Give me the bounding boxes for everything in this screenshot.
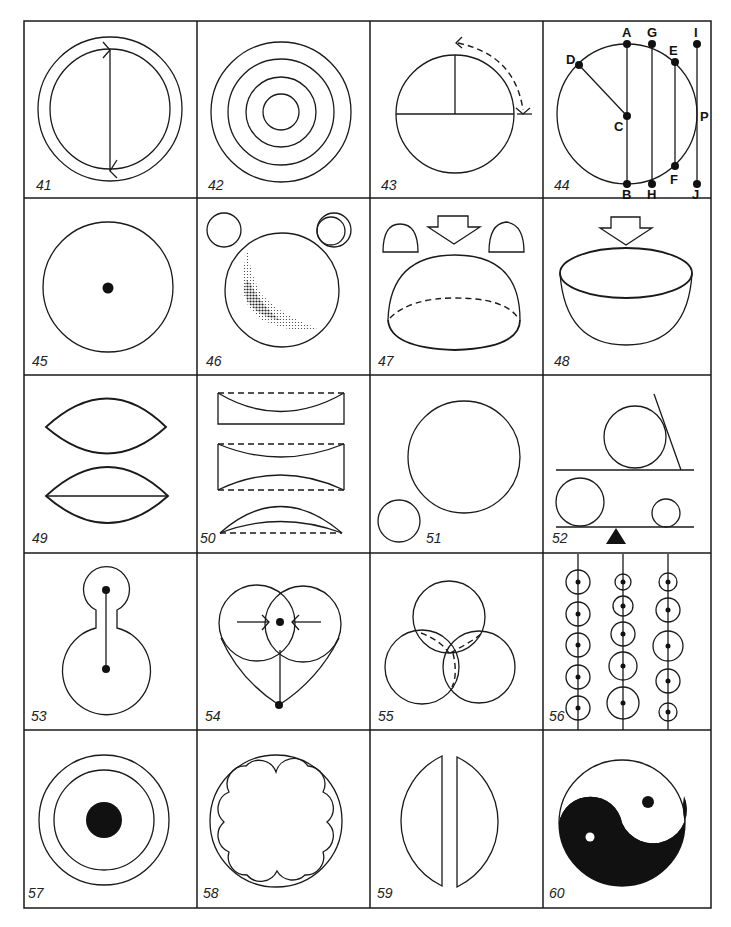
point-label-c: C bbox=[614, 119, 624, 134]
figure-46: 46 bbox=[206, 213, 351, 369]
figure-52: 52 bbox=[552, 394, 694, 546]
figure-sheet: 41 42 43 A G E bbox=[0, 0, 731, 927]
figure-47: 47 bbox=[378, 216, 524, 369]
figure-label: 53 bbox=[31, 708, 47, 724]
figure-41: 41 bbox=[36, 37, 182, 193]
figure-53: 53 bbox=[31, 567, 151, 724]
figure-56: 56 bbox=[549, 554, 683, 730]
figure-48: 48 bbox=[554, 217, 692, 369]
figure-label: 42 bbox=[208, 177, 224, 193]
point-label-e: E bbox=[669, 43, 678, 58]
figure-label: 44 bbox=[554, 177, 570, 193]
figure-51: 51 bbox=[378, 401, 520, 546]
figure-54: 54 bbox=[205, 585, 341, 724]
figure-label: 47 bbox=[378, 353, 395, 369]
figure-label: 46 bbox=[206, 353, 222, 369]
figure-label: 50 bbox=[200, 530, 216, 546]
figure-label: 55 bbox=[378, 708, 394, 724]
figure-57: 57 bbox=[28, 755, 169, 901]
figure-label: 54 bbox=[205, 708, 221, 724]
figure-label: 49 bbox=[32, 530, 48, 546]
figure-label: 41 bbox=[36, 177, 52, 193]
figure-label: 58 bbox=[203, 885, 219, 901]
figure-58: 58 bbox=[203, 755, 342, 901]
point-label-p: P bbox=[700, 109, 709, 124]
figure-label: 45 bbox=[32, 353, 48, 369]
figure-42: 42 bbox=[208, 42, 351, 193]
figure-label: 52 bbox=[552, 530, 568, 546]
figure-label: 57 bbox=[28, 885, 45, 901]
point-label-j: J bbox=[692, 187, 699, 202]
figure-label: 43 bbox=[381, 177, 397, 193]
point-label-h: H bbox=[647, 187, 656, 202]
point-label-g: G bbox=[647, 25, 657, 40]
figure-49: 49 bbox=[32, 399, 168, 547]
figure-43: 43 bbox=[381, 37, 532, 193]
point-label-b: B bbox=[622, 187, 631, 202]
figure-59: 59 bbox=[377, 756, 498, 901]
figure-label: 48 bbox=[554, 353, 570, 369]
figure-label: 56 bbox=[549, 708, 565, 724]
figure-label: 59 bbox=[377, 885, 393, 901]
figure-label: 60 bbox=[549, 885, 565, 901]
figure-50: 50 bbox=[200, 393, 344, 546]
point-label-a: A bbox=[622, 25, 632, 40]
point-label-f: F bbox=[670, 172, 678, 187]
figure-55: 55 bbox=[378, 581, 515, 724]
figure-label: 51 bbox=[426, 530, 442, 546]
point-label-i: I bbox=[694, 25, 698, 40]
point-label-d: D bbox=[566, 52, 575, 67]
figure-45: 45 bbox=[32, 222, 173, 369]
figure-44: A G E I D C P F B H J 44 bbox=[554, 25, 709, 202]
figure-60: 60 bbox=[549, 760, 687, 901]
